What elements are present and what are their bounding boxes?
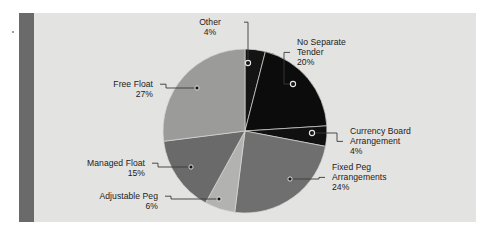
- slice-callout-label: Free Float27%: [0, 79, 153, 99]
- slice-label-text: Currency Board: [350, 126, 411, 136]
- slice-callout-label: Adjustable Peg6%: [0, 191, 158, 211]
- pie-slice: [163, 49, 245, 141]
- slice-marker: [195, 86, 199, 90]
- slice-callout-label: Currency BoardArrangement4%: [350, 126, 411, 157]
- slice-label-text: Arrangement: [350, 136, 411, 146]
- slice-callout-label: Managed Float15%: [0, 158, 145, 178]
- slice-marker: [189, 165, 193, 169]
- slice-label-text: Other: [176, 17, 244, 27]
- slice-value-text: 4%: [350, 146, 411, 156]
- slice-label-text: Adjustable Peg: [0, 191, 158, 201]
- slice-label-text: Managed Float: [0, 158, 145, 168]
- slice-callout-label: Other4%: [176, 17, 244, 37]
- slice-callout-label: Fixed PegArrangements24%: [332, 162, 387, 193]
- slice-label-text: Arrangements: [332, 172, 387, 182]
- slice-callout-label: No SeparateTender20%: [297, 37, 346, 68]
- slice-label-text: No Separate: [297, 37, 346, 47]
- screenshot-root: Other4%No SeparateTender20%Currency Boar…: [0, 0, 495, 237]
- slice-value-text: 4%: [176, 27, 244, 37]
- slice-value-text: 6%: [0, 201, 158, 211]
- slice-marker: [217, 197, 221, 201]
- slice-label-text: Tender: [297, 47, 346, 57]
- pie-slices: [163, 49, 327, 213]
- slice-value-text: 15%: [0, 168, 145, 178]
- slice-label-text: Free Float: [0, 79, 153, 89]
- slice-marker: [288, 177, 292, 181]
- slice-value-text: 24%: [332, 182, 387, 192]
- slice-label-text: Fixed Peg: [332, 162, 387, 172]
- slice-value-text: 27%: [0, 89, 153, 99]
- slice-value-text: 20%: [297, 57, 346, 67]
